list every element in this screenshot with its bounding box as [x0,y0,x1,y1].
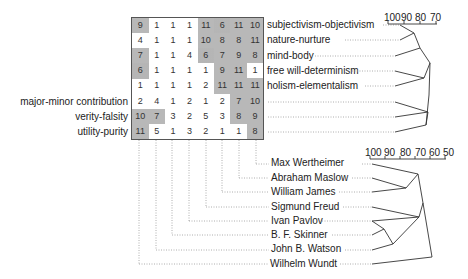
dendrograms [0,0,468,279]
